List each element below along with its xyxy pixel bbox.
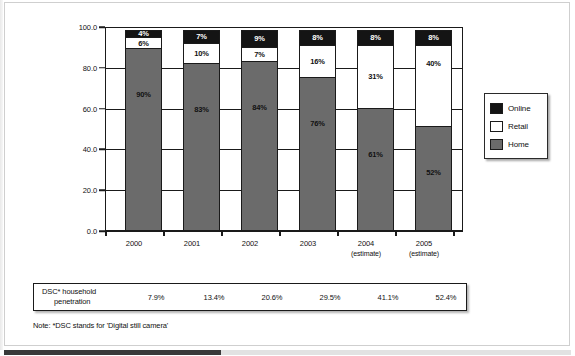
bar-group-2003[interactable]: 8% 16% 76% [299,30,336,231]
window-left-edge [0,0,3,350]
bar-segment-label: 16% [310,58,325,66]
chart-page-frame: 100.0 80.0 60.0 40.0 20.0 0.0 4% 6% 90% [4,2,570,346]
bar-group-2005[interactable]: 8% 40% 52% [415,30,452,231]
x-axis-sublabel: (estimate) [389,249,459,259]
bar-segment-label: 40% [426,60,441,68]
bar-segment-online[interactable]: 8% [357,30,394,46]
bar-segment-home[interactable]: 61% [357,108,394,232]
bar-segment-online[interactable]: 8% [415,30,452,46]
bar-segment-online[interactable]: 7% [183,30,220,44]
x-tick-mark [395,231,397,236]
bar-segment-label: 84% [252,104,267,112]
gridline-100 [106,27,462,28]
bar-segment-retail[interactable]: 16% [299,45,336,78]
penetration-value-2004: 41.1% [360,293,416,302]
x-axis-label-text: 2004 [358,239,374,248]
y-tick-label: 100.0 [79,23,97,32]
bottom-scrollbar-thumb[interactable] [4,350,221,355]
x-tick-mark [163,231,165,236]
footnote: Note: *DSC stands for 'Digital still cam… [33,321,168,330]
bar-segment-label: 10% [194,50,209,58]
x-tick-mark [279,231,281,236]
bar-segment-label: 6% [138,40,149,48]
bar-group-2001[interactable]: 7% 10% 83% [183,30,220,231]
bar-segment-home[interactable]: 76% [299,77,336,232]
bar-segment-label: 8% [370,34,381,42]
bar-segment-label: 31% [368,73,383,81]
penetration-value-2005: 52.4% [418,293,474,302]
bar-segment-label: 52% [426,169,441,177]
legend-swatch-home-icon [490,139,503,150]
legend-label: Retail [508,122,528,131]
y-tick-label: 60.0 [83,104,97,113]
legend-swatch-retail-icon [490,121,503,132]
bar-segment-retail[interactable]: 10% [183,43,220,63]
x-tick-mark [337,231,339,236]
y-tick-label: 0.0 [87,227,97,236]
bar-segment-home[interactable]: 83% [183,63,220,232]
penetration-value-2002: 20.6% [244,293,300,302]
x-tick-mark [221,231,223,236]
x-axis-label-text: 2000 [126,239,142,248]
x-axis-label-text: 2001 [184,239,200,248]
penetration-row-label-line1: DSC* household [42,287,96,296]
x-axis-label-text: 2002 [242,239,258,248]
bar-group-2000[interactable]: 4% 6% 90% [125,30,162,231]
bar-segment-retail[interactable]: 31% [357,45,394,108]
legend-label: Home [508,140,529,149]
bar-segment-home[interactable]: 52% [415,126,452,232]
penetration-value-2000: 7.9% [128,293,184,302]
chart-legend: Online Retail Home [484,93,548,159]
x-axis-line [105,230,463,232]
legend-swatch-online-icon [490,103,503,114]
bar-segment-label: 8% [312,34,323,42]
bar-segment-retail[interactable]: 7% [241,47,278,61]
legend-label: Online [508,104,531,113]
legend-item-retail[interactable]: Retail [490,117,547,135]
x-axis-label-text: 2005 [416,239,432,248]
penetration-value-2001: 13.4% [186,293,242,302]
plot-area: 4% 6% 90% 7% 10% 83% 9% [105,27,463,231]
penetration-row-label-line2: penetration [42,297,134,307]
y-tick-label: 80.0 [83,63,97,72]
bar-group-2002[interactable]: 9% 7% 84% [241,30,278,231]
legend-item-home[interactable]: Home [490,135,547,153]
bar-segment-label: 7% [254,51,265,59]
bar-segment-label: 9% [254,35,265,43]
bar-segment-label: 7% [196,33,207,41]
penetration-table: DSC* household penetration 7.9% 13.4% 20… [33,283,467,311]
x-tick-mark [105,231,107,236]
penetration-value-2003: 29.5% [302,293,358,302]
bar-segment-online[interactable]: 8% [299,30,336,46]
y-tick-label: 20.0 [83,186,97,195]
bar-segment-retail[interactable]: 40% [415,45,452,127]
bar-segment-label: 76% [310,120,325,128]
bar-segment-label: 61% [368,151,383,159]
legend-item-online[interactable]: Online [490,99,547,117]
y-axis: 100.0 80.0 60.0 40.0 20.0 0.0 [65,13,105,243]
bar-segment-label: 83% [194,106,209,114]
penetration-row-label: DSC* household penetration [42,287,134,307]
bar-segment-label: 8% [428,34,439,42]
bar-segment-label: 90% [136,91,151,99]
bar-group-2004[interactable]: 8% 31% 61% [357,30,394,231]
bar-segment-home[interactable]: 90% [125,48,162,232]
x-tick-mark [453,231,455,236]
bar-segment-home[interactable]: 84% [241,61,278,232]
bar-segment-online[interactable]: 9% [241,30,278,48]
y-tick-label: 40.0 [83,145,97,154]
x-axis-label-2005: 2005 (estimate) [389,239,459,259]
x-axis-label-text: 2003 [300,239,316,248]
bottom-scrollbar-track[interactable] [221,350,571,355]
